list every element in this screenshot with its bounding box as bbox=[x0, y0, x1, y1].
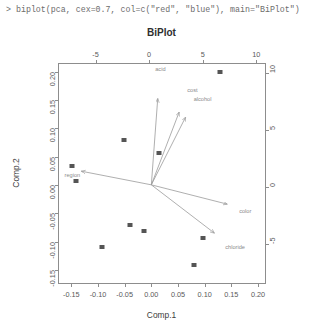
loading-arrow bbox=[81, 171, 151, 185]
x-axis-tick bbox=[231, 284, 232, 287]
loading-label: acid bbox=[155, 66, 165, 72]
right-axis-tick-label: -5 bbox=[268, 238, 277, 245]
x-axis-tick-label: -0.15 bbox=[63, 290, 80, 299]
x-axis-tick-label: 0.05 bbox=[171, 290, 185, 299]
right-axis-tick-label: 0 bbox=[268, 183, 277, 187]
right-axis-tick-label: 10 bbox=[268, 65, 277, 73]
loading-arrow bbox=[151, 185, 214, 233]
biplot-canvas bbox=[58, 63, 266, 284]
x-axis-tick bbox=[71, 284, 72, 287]
observation-point bbox=[217, 70, 222, 74]
top-axis-tick bbox=[203, 60, 204, 63]
observation-point bbox=[157, 151, 162, 155]
x-axis-tick-label: -0.05 bbox=[116, 290, 133, 299]
right-axis-tick bbox=[266, 73, 269, 74]
x-axis-tick bbox=[151, 284, 152, 287]
observation-point bbox=[99, 245, 104, 249]
loading-label: color bbox=[239, 208, 251, 214]
top-axis-tick-label: 0 bbox=[147, 50, 151, 59]
biplot-figure: BiPlot Comp.1 Comp.2 -0.15-0.10-0.050.00… bbox=[0, 0, 323, 330]
x-axis-tick-label: -0.10 bbox=[90, 290, 107, 299]
loading-label: chloride bbox=[225, 244, 245, 250]
y-axis-tick-label: -0.15 bbox=[48, 270, 57, 287]
loading-arrows-group bbox=[81, 99, 227, 233]
x-axis-tick bbox=[258, 284, 259, 287]
observation-point bbox=[121, 138, 126, 142]
observation-point bbox=[201, 236, 206, 240]
loading-arrow bbox=[151, 112, 179, 185]
chart-title: BiPlot bbox=[0, 27, 323, 38]
right-axis-tick bbox=[266, 130, 269, 131]
y-axis-tick-label: 0.00 bbox=[48, 185, 57, 199]
observation-point bbox=[128, 223, 133, 227]
top-axis-tick bbox=[256, 60, 257, 63]
top-axis-tick bbox=[96, 60, 97, 63]
x-axis-tick-label: 0.10 bbox=[198, 290, 212, 299]
right-axis-tick bbox=[266, 244, 269, 245]
loading-label: alcohol bbox=[194, 96, 212, 102]
observation-point bbox=[70, 164, 75, 168]
x-axis-tick bbox=[125, 284, 126, 287]
x-axis-tick-label: 0.00 bbox=[144, 290, 158, 299]
right-axis-tick-label: 5 bbox=[268, 126, 277, 130]
top-axis-tick-label: 10 bbox=[252, 50, 260, 59]
top-axis-tick bbox=[149, 60, 150, 63]
x-axis-tick bbox=[205, 284, 206, 287]
x-axis-tick bbox=[178, 284, 179, 287]
loading-label: region bbox=[65, 172, 81, 178]
observation-point bbox=[141, 229, 146, 233]
loading-label: cost bbox=[187, 87, 197, 93]
x-axis-tick-label: 0.15 bbox=[224, 290, 238, 299]
y-axis-tick-label: 0.10 bbox=[48, 128, 57, 142]
x-axis-tick bbox=[98, 284, 99, 287]
top-axis-tick-label: -5 bbox=[92, 50, 99, 59]
top-axis-tick-label: 5 bbox=[201, 50, 205, 59]
x-axis-title: Comp.1 bbox=[0, 310, 323, 320]
y-axis-title: Comp.2 bbox=[11, 158, 21, 187]
loading-arrow bbox=[151, 185, 227, 204]
y-axis-tick-label: -0.05 bbox=[48, 213, 57, 230]
y-axis-tick-label: 0.05 bbox=[48, 157, 57, 171]
y-axis-tick-label: -0.10 bbox=[48, 242, 57, 259]
loading-arrow bbox=[151, 99, 157, 185]
right-axis-tick bbox=[266, 187, 269, 188]
y-axis-tick-label: 0.15 bbox=[48, 100, 57, 114]
observation-point bbox=[73, 179, 78, 183]
y-axis-tick-label: 0.20 bbox=[48, 72, 57, 86]
x-axis-tick-label: 0.20 bbox=[251, 290, 265, 299]
observation-point bbox=[192, 263, 197, 267]
